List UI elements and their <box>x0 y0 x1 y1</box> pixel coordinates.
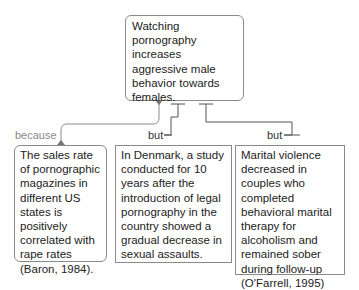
relation-label-but-2: but <box>267 129 282 141</box>
premise-text-1: The sales rate of pornographic magazines… <box>20 149 100 275</box>
premise-text-3: Marital violence decreased in couples wh… <box>241 149 332 289</box>
claim-text: Watching pornography increases aggressiv… <box>132 20 220 103</box>
claim-box: Watching pornography increases aggressiv… <box>125 15 244 101</box>
premise-text-2: In Denmark, a study conducted for 10 yea… <box>121 149 224 260</box>
relation-label-but-1: but <box>148 129 163 141</box>
premise-box-2: In Denmark, a study conducted for 10 yea… <box>115 145 232 263</box>
premise-box-3: Marital violence decreased in couples wh… <box>235 145 345 275</box>
relation-label-because: because <box>15 129 57 141</box>
premise-box-1: The sales rate of pornographic magazines… <box>14 145 107 262</box>
